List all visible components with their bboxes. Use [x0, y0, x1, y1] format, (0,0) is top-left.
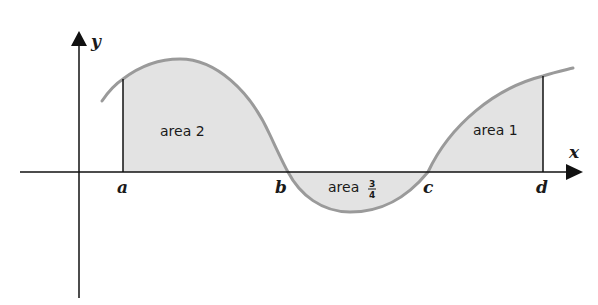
region-label-area-2: area 2 — [160, 123, 205, 139]
area-diagram: y x a b c d area 2 area 1 area 3 4 — [0, 0, 598, 305]
point-label-b: b — [275, 177, 287, 197]
region-label-area-3-denominator: 4 — [369, 190, 375, 200]
region-label-area-1: area 1 — [473, 122, 518, 138]
point-label-a: a — [117, 177, 128, 197]
point-label-c: c — [423, 177, 434, 197]
point-label-d: d — [536, 177, 548, 197]
region-label-area-3-prefix: area — [328, 179, 359, 195]
y-axis-label: y — [90, 31, 102, 51]
x-axis-arrow-icon — [566, 164, 583, 180]
y-axis-arrow-icon — [71, 31, 87, 46]
region-label-area-3-numerator: 3 — [369, 179, 375, 189]
x-axis-label: x — [568, 142, 580, 162]
